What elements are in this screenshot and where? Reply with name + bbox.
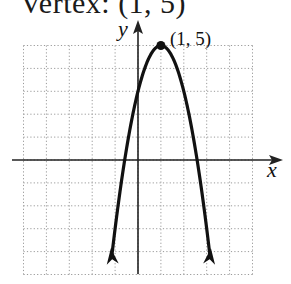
parabola-chart: (1, 5) x y: [0, 0, 291, 284]
y-axis-label: y: [116, 16, 128, 41]
vertex-label: (1, 5): [170, 28, 211, 50]
vertex-point: [156, 41, 165, 50]
x-axis-label: x: [266, 157, 277, 182]
